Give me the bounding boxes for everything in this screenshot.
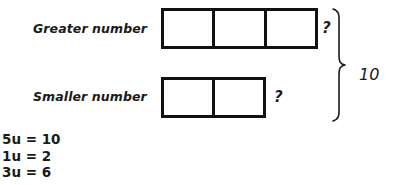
bar-model-diagram: Greater number ? Smaller number ? 10 5u … xyxy=(0,0,395,185)
total-value-label: 10 xyxy=(359,65,379,84)
bar-unit-cell xyxy=(215,11,266,46)
bar-unit-cell xyxy=(164,80,215,115)
total-brace xyxy=(330,2,356,128)
equation-line: 3u = 6 xyxy=(2,164,61,181)
bar-unit-cell xyxy=(267,11,315,46)
curly-brace-icon xyxy=(330,2,356,128)
bar-unit-cell xyxy=(164,11,215,46)
smaller-number-question-mark: ? xyxy=(274,88,283,106)
working-equations: 5u = 10 1u = 2 3u = 6 xyxy=(2,131,61,181)
smaller-number-bar xyxy=(161,77,266,118)
greater-number-bar xyxy=(161,8,318,49)
bar-unit-cell xyxy=(215,80,263,115)
equation-line: 1u = 2 xyxy=(2,148,61,165)
equation-line: 5u = 10 xyxy=(2,131,61,148)
smaller-number-label: Smaller number xyxy=(33,89,147,104)
greater-number-label: Greater number xyxy=(33,21,147,36)
